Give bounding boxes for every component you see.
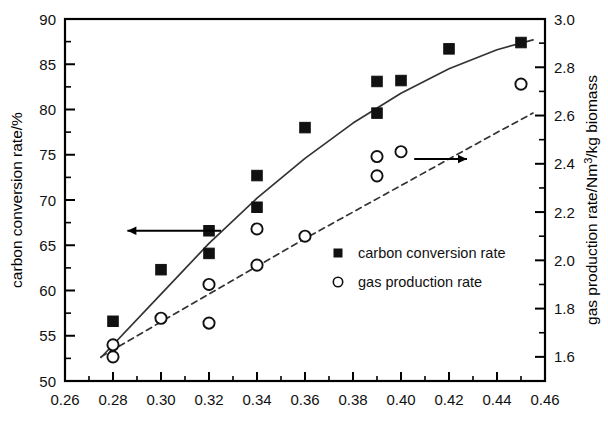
data-point-circle (515, 79, 526, 90)
x-tick-label: 0.32 (194, 391, 223, 408)
x-tick-label: 0.38 (338, 391, 367, 408)
x-tick-label: 0.44 (482, 391, 511, 408)
x-tick-label: 0.30 (146, 391, 175, 408)
x-tick-label: 0.40 (386, 391, 415, 408)
x-tick-label: 0.26 (50, 391, 79, 408)
y-tick-label: 65 (39, 237, 56, 254)
y-tick-label: 85 (39, 56, 56, 73)
y-tick-label: 80 (39, 101, 56, 118)
data-point-circle (251, 260, 262, 271)
data-point-circle (251, 223, 262, 234)
data-point-circle (299, 231, 310, 242)
y-tick-label: 60 (39, 282, 56, 299)
data-point-circle (203, 317, 214, 328)
data-point-circle (155, 313, 166, 324)
x-tick-label: 0.46 (530, 391, 559, 408)
y-tick-label: 75 (39, 146, 56, 163)
data-point-square (516, 37, 527, 48)
y2-tick-label: 2.8 (554, 59, 575, 76)
data-point-square (372, 108, 383, 119)
data-point-square (204, 248, 215, 259)
data-point-circle (107, 339, 118, 350)
data-point-square (372, 76, 383, 87)
y2-tick-label: 2.0 (554, 252, 575, 269)
data-point-square (108, 316, 119, 327)
data-point-circle (395, 146, 406, 157)
y2-tick-label: 2.6 (554, 107, 575, 124)
y-tick-label: 70 (39, 192, 56, 209)
y-axis-title: carbon conversion rate/% (8, 112, 25, 288)
data-point-square (156, 264, 167, 275)
data-point-square (252, 170, 263, 181)
y2-tick-label: 2.2 (554, 204, 575, 221)
x-axis-tick-labels: 0.260.280.300.320.340.360.380.400.420.44… (50, 391, 559, 408)
data-point-circle (203, 279, 214, 290)
y-tick-label: 90 (39, 11, 56, 28)
x-tick-label: 0.34 (242, 391, 271, 408)
data-point-circle (371, 170, 382, 181)
data-point-square (444, 44, 455, 55)
legend-label: carbon conversion rate (358, 245, 506, 261)
y2-axis-title: gas production rate/Nm3/kg biomass (582, 75, 600, 325)
x-tick-label: 0.42 (434, 391, 463, 408)
y2-tick-label: 2.4 (554, 155, 575, 172)
y2-tick-label: 1.6 (554, 348, 575, 365)
legend-marker-circle (333, 277, 342, 286)
legend-marker-square (334, 249, 343, 258)
x-tick-label: 0.36 (290, 391, 319, 408)
data-point-circle (371, 151, 382, 162)
y2-tick-label: 3.0 (554, 11, 575, 28)
x-tick-label: 0.28 (98, 391, 127, 408)
y2-tick-label: 1.8 (554, 300, 575, 317)
data-point-square (300, 122, 311, 133)
y-axis-tick-labels: 505560657075808590 (39, 11, 56, 390)
legend-label: gas production rate (358, 274, 482, 290)
y-tick-label: 50 (39, 373, 56, 390)
y-tick-label: 55 (39, 327, 56, 344)
chart-figure: 0.260.280.300.320.340.360.380.400.420.44… (0, 0, 608, 424)
data-point-square (252, 202, 263, 213)
data-point-square (396, 75, 407, 86)
data-point-circle (107, 351, 118, 362)
chart-background (0, 0, 608, 424)
